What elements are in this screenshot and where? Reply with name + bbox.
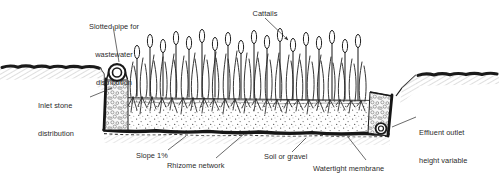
label-effluent-outlet-line1: Effluent outlet: [419, 128, 497, 137]
effluent-outlet-pipe: [376, 123, 387, 134]
label-rhizome-network: Rhizome network: [167, 161, 224, 170]
label-effluent-outlet-line2: height variable: [419, 156, 497, 165]
watertight-membrane: [104, 130, 390, 145]
label-inlet-stone-line1: Inlet stone: [38, 101, 98, 110]
label-cattails: Cattails: [228, 9, 302, 18]
label-slope: Slope 1%: [136, 151, 168, 160]
label-inlet-stone: Inlet stone distribution: [38, 83, 98, 157]
label-slotted-pipe-line1: Slotted pipe for: [62, 22, 166, 31]
label-effluent-outlet: Effluent outlet height variable: [419, 110, 497, 184]
leader-effluent-outlet: [392, 117, 416, 127]
label-watertight-membrane: Watertight membrane: [313, 164, 384, 173]
label-inlet-stone-line2: distribution: [38, 129, 98, 138]
label-slotted-pipe-line2: wastewater: [62, 50, 166, 59]
label-soil-or-gravel: Soil or gravel: [264, 152, 307, 161]
wetland-cross-section-diagram: Slotted pipe for wastewater distribution…: [0, 0, 499, 192]
